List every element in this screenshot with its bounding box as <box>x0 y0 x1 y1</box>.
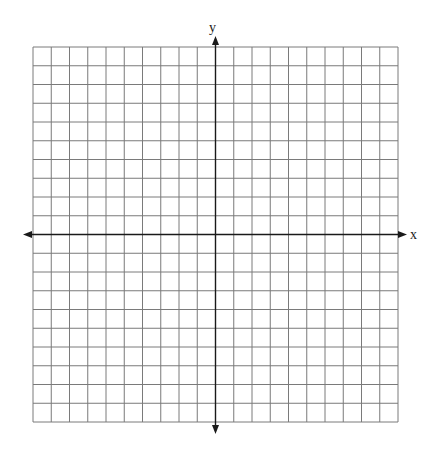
x-axis-label: x <box>410 227 417 242</box>
x-axis-right-arrow-icon <box>398 231 407 238</box>
y-axis-bottom-arrow-icon <box>212 425 219 434</box>
y-axis-top-arrow-icon <box>212 36 219 45</box>
y-axis-label: y <box>209 20 216 35</box>
coordinate-plane: x y <box>0 0 436 453</box>
x-axis-left-arrow-icon <box>23 231 32 238</box>
